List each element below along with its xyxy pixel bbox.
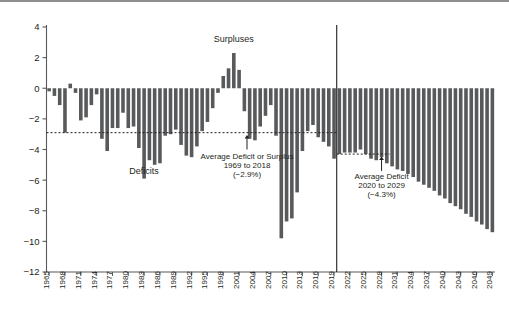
bar-2018 — [327, 88, 331, 146]
bar-1999 — [227, 68, 231, 88]
x-axis-ticks: 1965196819711974197719801983198619891992… — [42, 271, 494, 289]
x-tick-label-1971: 1971 — [74, 271, 83, 289]
deficits-label: Deficits — [129, 166, 159, 176]
x-tick-label-2013: 2013 — [295, 271, 304, 289]
bar-1975 — [100, 88, 104, 139]
bar-2031 — [396, 88, 400, 169]
bar-2013 — [301, 88, 305, 151]
bar-2020 — [338, 88, 342, 154]
bar-series — [47, 53, 494, 238]
y-tick-label--2: −2 — [29, 113, 40, 124]
x-tick-label-2043: 2043 — [454, 271, 463, 289]
x-tick-label-2022: 2022 — [343, 271, 352, 289]
bar-2034 — [411, 88, 415, 177]
bar-1967 — [58, 88, 62, 105]
bar-1984 — [148, 88, 152, 160]
y-tick-label--10: −10 — [23, 236, 39, 247]
bar-2045 — [469, 88, 473, 217]
bar-1981 — [132, 88, 136, 126]
x-tick-label-1974: 1974 — [90, 271, 99, 289]
bar-2005 — [258, 88, 262, 126]
bar-1978 — [116, 88, 120, 128]
bar-2002 — [243, 88, 247, 111]
x-tick-label-2007: 2007 — [264, 271, 273, 289]
bar-2049 — [491, 88, 495, 232]
y-tick-label-4: 4 — [34, 21, 39, 32]
bar-1994 — [200, 88, 204, 131]
x-tick-label-1965: 1965 — [42, 271, 51, 289]
bar-2014 — [306, 88, 310, 131]
bar-2039 — [438, 88, 442, 195]
x-tick-label-2037: 2037 — [422, 271, 431, 289]
bar-2024 — [359, 88, 363, 149]
bar-1974 — [95, 88, 99, 94]
bar-2023 — [353, 88, 357, 152]
bar-1988 — [169, 88, 173, 134]
x-tick-label-1992: 1992 — [185, 271, 194, 289]
y-tick-label-2: 2 — [34, 52, 39, 63]
bar-1977 — [111, 88, 115, 128]
bar-2007 — [269, 88, 273, 105]
bar-2029 — [385, 88, 389, 163]
bar-2032 — [401, 88, 405, 171]
bar-1976 — [105, 88, 109, 151]
bar-1980 — [126, 88, 130, 128]
bar-1966 — [53, 88, 57, 96]
bar-2009 — [280, 88, 284, 238]
projection-average-line2: 2020 to 2029 — [358, 181, 405, 190]
bar-1979 — [121, 88, 125, 113]
bar-1997 — [216, 88, 220, 93]
bar-1973 — [90, 88, 94, 105]
x-tick-label-2031: 2031 — [390, 271, 399, 289]
bar-2030 — [390, 88, 394, 166]
bar-2042 — [454, 88, 458, 206]
x-tick-label-2049: 2049 — [485, 271, 494, 289]
y-tick-label--6: −6 — [29, 175, 40, 186]
x-tick-label-2046: 2046 — [470, 271, 479, 289]
bar-2022 — [348, 88, 352, 152]
bar-2016 — [316, 88, 320, 137]
x-tick-label-1998: 1998 — [216, 271, 225, 289]
x-tick-label-2019: 2019 — [327, 271, 336, 289]
bar-2015 — [311, 88, 315, 125]
bar-1991 — [185, 88, 189, 155]
bar-2001 — [237, 70, 241, 88]
bar-2008 — [274, 88, 278, 135]
bar-2044 — [464, 88, 468, 214]
x-tick-label-1977: 1977 — [105, 271, 114, 289]
bar-2047 — [480, 88, 484, 224]
bar-1985 — [153, 88, 157, 165]
bar-1968 — [63, 88, 67, 132]
bar-1990 — [179, 88, 183, 145]
federal-deficit-surplus-bar-chart: 420−2−4−6−8−10−12 1965196819711974197719… — [0, 0, 509, 319]
x-tick-label-2004: 2004 — [248, 271, 257, 289]
bar-1982 — [137, 88, 141, 148]
y-tick-label--12: −12 — [23, 266, 39, 277]
chart-canvas: 420−2−4−6−8−10−12 1965196819711974197719… — [0, 0, 509, 319]
x-tick-label-1980: 1980 — [121, 271, 130, 289]
bar-2000 — [232, 53, 236, 88]
bar-2017 — [322, 88, 326, 142]
x-tick-label-2034: 2034 — [406, 271, 415, 289]
bar-2037 — [427, 88, 431, 188]
x-tick-label-1995: 1995 — [200, 271, 209, 289]
historical-average-line1: Average Deficit or Surplus — [201, 152, 294, 161]
x-tick-label-1968: 1968 — [58, 271, 67, 289]
bar-1965 — [47, 88, 51, 91]
bar-2038 — [433, 88, 437, 191]
x-tick-label-1983: 1983 — [137, 271, 146, 289]
bar-1996 — [211, 88, 215, 108]
bar-2036 — [422, 88, 426, 184]
bar-1993 — [195, 88, 199, 146]
bar-1970 — [74, 88, 78, 93]
historical-average-line2: 1969 to 2018 — [224, 161, 271, 170]
projection-average-line1: Average Deficit — [355, 172, 410, 181]
y-axis-ticks: 420−2−4−6−8−10−12 — [23, 21, 46, 277]
x-tick-label-1989: 1989 — [169, 271, 178, 289]
projection-average-line3: (−4.3%) — [367, 190, 396, 199]
bar-2027 — [374, 88, 378, 160]
bar-1992 — [190, 88, 194, 157]
x-tick-label-2025: 2025 — [359, 271, 368, 289]
bar-2026 — [369, 88, 373, 158]
bar-2048 — [485, 88, 489, 229]
